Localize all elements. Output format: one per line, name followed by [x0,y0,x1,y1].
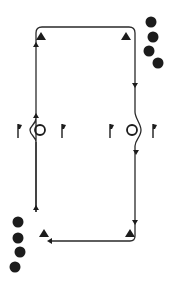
player-group-top-right [144,17,164,69]
arrow-left-icon [47,238,52,244]
arrow-up-icon [33,113,39,118]
player-icon [144,46,155,57]
player-icon [148,32,159,43]
flag-icon [18,124,22,138]
movement-path [30,27,141,241]
cones [36,32,135,237]
cone-icon [125,229,135,237]
flag-icon [62,124,66,138]
player-icon [153,58,164,69]
flag-icon [110,124,114,138]
arrow-down-icon [133,150,139,155]
arrow-up-icon [33,205,39,210]
diagram-canvas [0,0,172,287]
flag-icon [153,124,157,138]
ring-icon [127,125,137,135]
arrow-down-icon [132,83,138,88]
player-icon [10,262,21,273]
arrow-down-icon [132,220,138,225]
rings [35,125,137,135]
player-icon [13,217,24,228]
player-icon [13,233,24,244]
cone-icon [39,229,49,237]
cone-icon [121,32,131,40]
player-group-bottom-left [10,217,26,273]
player-icon [15,247,26,258]
player-icon [146,17,157,28]
cone-icon [36,32,46,40]
direction-arrows [33,42,139,244]
drill-diagram: Passing drill: two-lane loop with cones,… [0,0,172,287]
arrow-up-icon [33,42,39,47]
